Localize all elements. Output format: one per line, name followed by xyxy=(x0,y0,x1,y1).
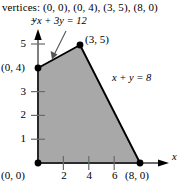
feasible-region-polygon xyxy=(38,45,140,163)
constraint-1-leader-line xyxy=(54,31,66,55)
vertex-dot-8-0 xyxy=(137,160,144,167)
constraint-equation-1: −x + 3y = 12 xyxy=(30,16,87,27)
feasible-region-figure: vertices: (0, 0), (0, 4), (3, 5), (8, 0)… xyxy=(0,0,182,193)
x-axis-label: x xyxy=(172,152,177,163)
x-tick-label-6: 6 xyxy=(109,170,120,181)
y-tick-label-3: 3 xyxy=(14,86,26,97)
x-tick-label-2: 2 xyxy=(58,170,69,181)
vertex-dot-0-0 xyxy=(35,160,42,167)
plot-canvas xyxy=(0,0,182,193)
y-axis-arrowhead xyxy=(34,29,41,40)
vertex-label-3-5: (3, 5) xyxy=(85,34,109,45)
vertex-dot-3-5 xyxy=(77,42,84,49)
constraint-equation-2: x + y = 8 xyxy=(112,73,151,84)
vertex-label-8-0: (8, 0) xyxy=(125,170,149,181)
vertex-label-0-4: (0, 4) xyxy=(1,62,25,73)
x-tick-label-4: 4 xyxy=(84,170,95,181)
vertex-label-0-0: (0, 0) xyxy=(1,170,25,181)
vertex-dot-0-4 xyxy=(35,65,42,72)
x-axis-arrowhead xyxy=(158,159,169,166)
y-tick-label-5: 5 xyxy=(14,38,26,49)
y-tick-label-1: 1 xyxy=(14,133,26,144)
y-tick-label-2: 2 xyxy=(14,109,26,120)
